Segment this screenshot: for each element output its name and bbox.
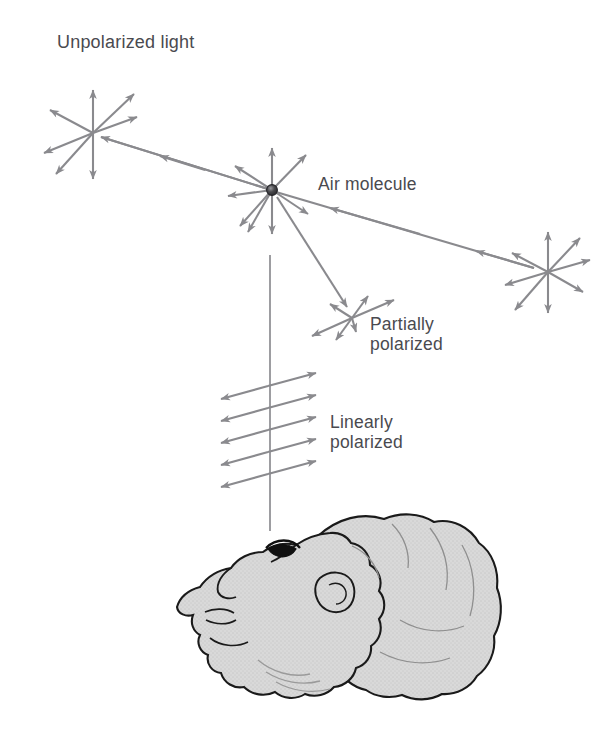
label-unpolarized-light: Unpolarized light (57, 32, 194, 52)
polarization-arrow (221, 439, 316, 465)
polarization-scattering-diagram: Unpolarized light Air molecule Partially… (0, 0, 603, 730)
linearly-polarized-arrows (221, 373, 316, 487)
ear (315, 573, 354, 613)
scattered-beam-partial (277, 197, 347, 307)
polarization-arrow (221, 417, 316, 443)
incident-beam (101, 137, 268, 189)
polarization-arrow (221, 461, 316, 487)
transmitted-burst (505, 232, 590, 313)
observer-head (177, 514, 501, 699)
label-partially-polarized-line1: Partially (370, 314, 434, 334)
polarization-arrow (221, 395, 316, 421)
unpolarized-source-burst (44, 90, 137, 179)
label-linearly-polarized-line2: polarized (330, 432, 403, 452)
air-molecule-dot (267, 185, 278, 196)
label-linearly-polarized-line1: Linearly (330, 412, 393, 432)
label-air-molecule: Air molecule (318, 174, 417, 194)
polarization-arrow (221, 373, 316, 399)
label-partially-polarized-line2: polarized (370, 334, 443, 354)
incident-beam-mid-arrow (160, 156, 205, 170)
figure-canvas: Unpolarized light Air molecule Partially… (0, 0, 603, 730)
